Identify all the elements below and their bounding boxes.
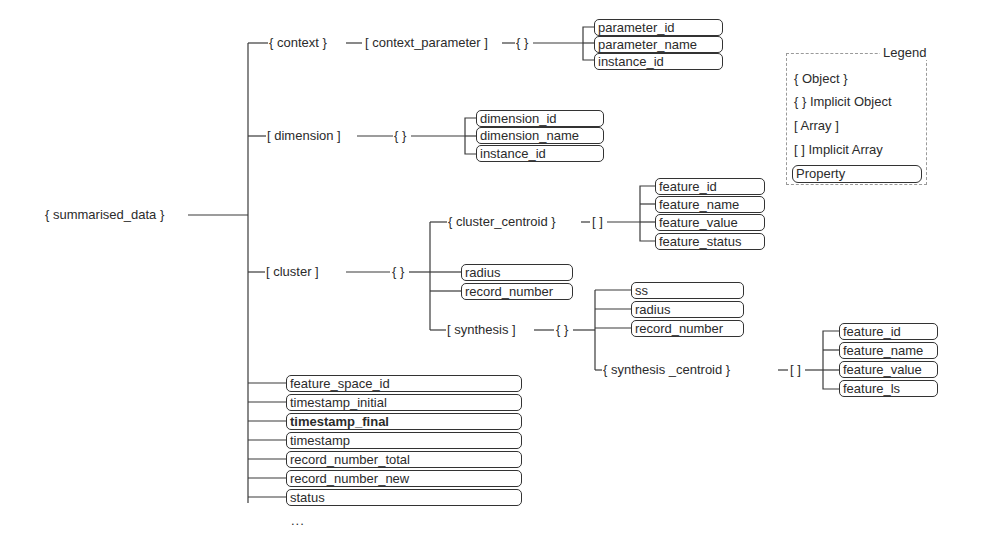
property-dimension-name: dimension_name [476,127,604,144]
property-cc-feature-id: feature_id [655,178,765,195]
property-sc-feature-ls: feature_ls [839,380,938,397]
legend-implicit-array: [ ] Implicit Array [794,142,883,157]
cluster-centroid-object-label: { cluster_centroid } [448,214,556,230]
property-parameter-id: parameter_id [594,19,723,36]
more-ellipsis: ... [291,513,305,528]
cluster-implicit-object-label: { } [392,264,404,280]
property-sc-feature-name: feature_name [839,342,938,359]
context-parameter-array-label: [ context_parameter ] [365,35,488,51]
property-cluster-radius: radius [461,264,573,281]
property-cc-feature-value: feature_value [655,214,765,231]
property-dimension-id: dimension_id [476,110,604,127]
property-cc-feature-status: feature_status [655,233,765,250]
synthesis-centroid-implicit-array-label: [ ] [790,362,801,378]
legend-object: { Object } [794,71,847,86]
property-timestamp: timestamp [286,432,522,449]
property-dimension-instance-id: instance_id [476,145,604,162]
legend-array: [ Array ] [794,118,839,133]
property-instance-id: instance_id [594,53,723,70]
property-synthesis-record-number: record_number [631,320,744,337]
property-synthesis-radius: radius [631,301,744,318]
property-record-number-new: record_number_new [286,470,522,487]
dimension-array-label: [ dimension ] [267,128,341,144]
property-cluster-record-number: record_number [461,283,573,300]
property-parameter-name: parameter_name [594,36,723,53]
cluster-centroid-implicit-array-label: [ ] [592,214,603,230]
property-sc-feature-value: feature_value [839,361,938,378]
property-timestamp-initial: timestamp_initial [286,394,522,411]
synthesis-array-label: [ synthesis ] [447,322,516,338]
property-record-number-total: record_number_total [286,451,522,468]
cluster-array-label: [ cluster ] [266,264,319,280]
property-sc-feature-id: feature_id [839,323,938,340]
legend-property: Property [792,165,922,183]
context-object-label: { context } [269,35,327,51]
property-cc-feature-name: feature_name [655,196,765,213]
context-implicit-object-label: { } [516,35,528,51]
legend-implicit-object: { } Implicit Object [794,94,892,109]
property-timestamp-final: timestamp_final [286,413,522,430]
property-status: status [286,489,522,506]
synthesis-centroid-object-label: { synthesis _centroid } [603,362,730,378]
property-synthesis-ss: ss [631,282,744,299]
property-feature-space-id: feature_space_id [286,375,522,392]
root-object-label: { summarised_data } [45,207,164,223]
synthesis-implicit-object-label: { } [556,322,568,338]
dimension-implicit-object-label: { } [394,128,406,144]
legend-title: Legend [880,45,929,60]
